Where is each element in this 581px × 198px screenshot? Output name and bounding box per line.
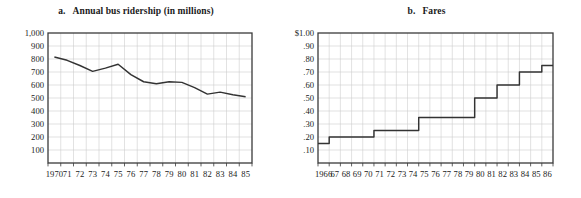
y-tick-label: .70 [303,67,314,77]
gridlines [318,33,553,163]
two-chart-figure: a.Annual bus ridership (in millions) 1,0… [0,0,581,198]
y-tick-label: .50 [303,93,314,103]
chart-panel-b: b.Fares $1.00.90.80.70.60.50.40.30.20.10… [272,0,581,198]
x-tick-label: 79 [465,169,474,179]
x-tick-label: 74 [409,169,418,179]
x-tick-label: 72 [386,169,395,179]
x-tick-label: 85 [241,169,250,179]
x-tick-label: 76 [431,169,440,179]
x-tick-label: 76 [127,169,136,179]
x-tick-label: 75 [114,169,123,179]
chart-b-svg: $1.00.90.80.70.60.50.40.30.20.1019666768… [272,0,581,198]
y-tick-label: 400 [31,106,44,116]
y-axis-labels: 1,000900800700600500400300200100 [25,28,44,155]
y-tick-label: 700 [31,67,44,77]
x-tick-label: 70 [364,169,373,179]
chart-b-plot-area: $1.00.90.80.70.60.50.40.30.20.1019666768… [272,0,581,198]
x-tick-label: 81 [190,169,199,179]
y-tick-label: .40 [303,106,314,116]
x-tick-label: 78 [454,169,463,179]
x-tick-label: 85 [532,169,541,179]
y-tick-label: .90 [303,41,314,51]
y-axis-labels: $1.00.90.80.70.60.50.40.30.20.10 [295,28,314,155]
x-axis-labels: 1970717273747576777879808182838485 [46,163,252,179]
y-tick-label: .60 [303,80,314,90]
y-tick-label: .20 [303,132,314,142]
x-tick-label: 73 [88,169,97,179]
x-tick-label: 80 [476,169,485,179]
chart-panel-a: a.Annual bus ridership (in millions) 1,0… [0,0,272,198]
x-tick-label: 82 [498,169,507,179]
y-tick-label: 900 [31,41,44,51]
x-tick-label: 79 [165,169,174,179]
x-axis-labels: 1966676869707172737475767778798081828384… [315,163,553,179]
x-tick-label: 72 [76,169,85,179]
x-tick-label: 77 [139,169,148,179]
x-tick-label: 84 [229,169,238,179]
y-tick-label: 300 [31,119,44,129]
data-series-line [318,66,553,144]
x-tick-label: 74 [101,169,110,179]
x-tick-label: 84 [521,169,530,179]
x-tick-label: 73 [398,169,407,179]
y-tick-label: 600 [31,80,44,90]
chart-a-svg: 1,00090080070060050040030020010019707172… [0,0,272,198]
x-tick-label: 67 [330,169,339,179]
x-tick-label: 80 [178,169,187,179]
x-tick-label: 75 [420,169,429,179]
x-tick-label: 82 [203,169,212,179]
y-tick-label: $1.00 [295,28,314,38]
y-tick-label: .80 [303,54,314,64]
x-tick-label: 1970 [46,169,63,179]
x-tick-label: 86 [543,169,552,179]
y-tick-label: .30 [303,119,314,129]
y-tick-label: 200 [31,132,44,142]
x-tick-label: 69 [353,169,362,179]
x-tick-label: 71 [375,169,384,179]
y-tick-label: 1,000 [25,28,44,38]
x-tick-label: 83 [510,169,519,179]
x-tick-label: 77 [442,169,451,179]
x-tick-label: 81 [487,169,496,179]
gridlines [48,33,252,163]
x-tick-label: 78 [152,169,161,179]
y-tick-label: 800 [31,54,44,64]
x-tick-label: 68 [342,169,351,179]
y-tick-label: 500 [31,93,44,103]
y-tick-label: 100 [31,145,44,155]
x-tick-label: 83 [216,169,225,179]
x-tick-label: 71 [63,169,72,179]
y-tick-label: .10 [303,145,314,155]
chart-a-plot-area: 1,00090080070060050040030020010019707172… [0,0,272,198]
